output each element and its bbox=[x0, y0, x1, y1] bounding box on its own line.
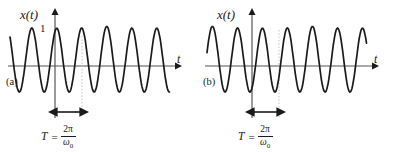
period-formula-b: T = 2π ω0 bbox=[238, 125, 273, 149]
period-formula-a: T = 2π ω0 bbox=[41, 125, 76, 149]
figure-root: x(t) 1 t (a) T = 2π ω0 bbox=[0, 0, 393, 152]
period-equals-b: = bbox=[248, 132, 254, 143]
waveform-curve-b bbox=[207, 27, 367, 93]
plot-panel-b: x(t) t (b) T = 2π ω0 bbox=[197, 0, 393, 152]
x-axis-label-b: t bbox=[374, 53, 377, 65]
amplitude-label-a: 1 bbox=[40, 23, 46, 34]
plot-panel-a: x(t) 1 t (a) T = 2π ω0 bbox=[0, 0, 196, 152]
waveform-svg-b bbox=[197, 0, 393, 152]
period-fraction-b: 2π ω0 bbox=[258, 125, 273, 149]
period-symbol-a: T bbox=[41, 131, 47, 143]
y-axis-label-a: x(t) bbox=[20, 8, 38, 21]
period-equals-a: = bbox=[51, 132, 57, 143]
period-numerator-a: 2π bbox=[61, 125, 75, 136]
period-numerator-b: 2π bbox=[258, 125, 272, 136]
x-axis-label-a: t bbox=[177, 53, 180, 65]
period-fraction-a: 2π ω0 bbox=[61, 125, 76, 149]
waveform-curve-a bbox=[10, 27, 170, 93]
panel-label-a: (a) bbox=[6, 77, 18, 88]
period-denominator-b: ω0 bbox=[258, 137, 272, 150]
panel-label-b: (b) bbox=[203, 77, 215, 88]
period-symbol-b: T bbox=[238, 131, 244, 143]
y-axis-label-b: x(t) bbox=[217, 8, 235, 21]
waveform-svg-a bbox=[0, 0, 196, 152]
period-denominator-a: ω0 bbox=[61, 137, 75, 150]
